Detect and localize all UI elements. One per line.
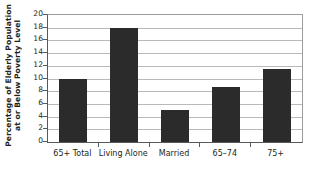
bar [110,28,138,142]
bar-chart: Percentage of Elderly Population at or B… [0,0,310,169]
y-axis-title-line-1: Percentage of Elderly Population [4,4,13,147]
x-axis-tick-labels: 65+ TotalLiving AloneMarried65–7475+ [47,149,301,165]
x-axis-tick-label: 75+ [267,149,284,159]
x-axis-tick-label: Married [159,149,189,159]
x-axis-tick-mark [98,142,99,147]
y-axis-tick-label: 14 [33,48,43,56]
x-axis-tick-mark [250,142,251,147]
y-axis-tick-label: 12 [33,61,43,69]
y-axis-tick-label: 20 [33,10,43,18]
bar [212,87,240,142]
bar-slot [99,15,150,142]
y-axis-title-line-2: at or Below Poverty Level [13,4,22,147]
y-axis-tick-label: 10 [33,74,43,82]
x-axis-tick-marks [47,142,301,147]
bar-slot [251,15,302,142]
y-axis-tick-labels: 02468101214161820 [24,14,43,141]
y-axis-tick-label: 18 [33,23,43,31]
bar [59,79,87,143]
y-axis-title: Percentage of Elderly Population at or B… [0,0,26,150]
bar-slot [150,15,201,142]
bar [161,110,189,142]
bar-slot [48,15,99,142]
x-axis-tick-label: Living Alone [99,149,148,159]
bar-series [48,15,302,142]
x-axis-tick-mark [199,142,200,147]
x-axis-tick-mark [149,142,150,147]
x-axis-tick-label: 65–74 [213,149,237,159]
plot-area [47,14,303,143]
bar [263,69,291,142]
bar-slot [200,15,251,142]
x-axis-tick-label: 65+ Total [53,149,91,159]
y-axis-tick-label: 16 [33,35,43,43]
